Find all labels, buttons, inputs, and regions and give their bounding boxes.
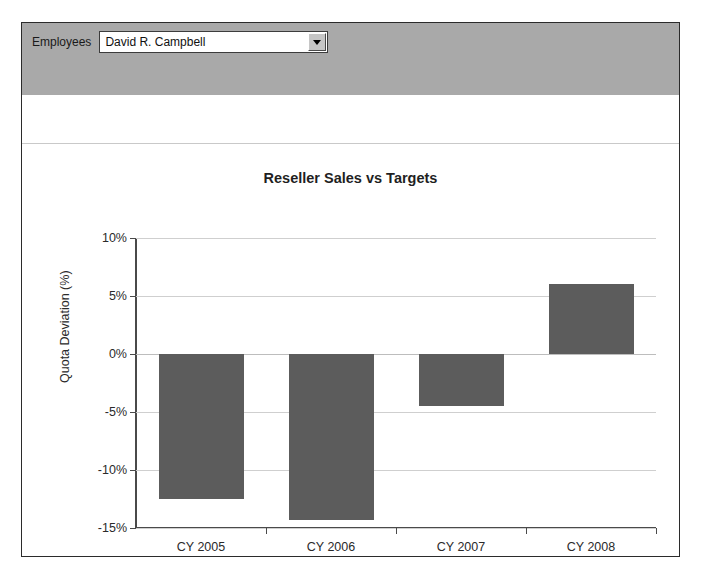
plot-area: 10%5%0%-5%-10%-15% CY 2005CY 2006CY 2007… — [136, 238, 656, 528]
y-tick-label: -5% — [105, 405, 127, 419]
y-axis-title: Quota Deviation (%) — [58, 270, 72, 383]
y-tick-label: -15% — [98, 521, 127, 535]
y-tick-mark — [130, 412, 136, 413]
y-tick-label: 5% — [109, 289, 127, 303]
x-tick-mark — [656, 528, 657, 534]
x-tick-label: CY 2005 — [177, 540, 225, 554]
x-tick-mark — [266, 528, 267, 534]
y-tick-label: -10% — [98, 463, 127, 477]
bar[interactable] — [419, 354, 504, 406]
x-tick-mark — [526, 528, 527, 534]
y-tick-mark — [130, 354, 136, 355]
y-tick-label: 10% — [102, 231, 127, 245]
y-tick-label: 0% — [109, 347, 127, 361]
employees-select[interactable]: David R. Campbell — [99, 31, 328, 53]
x-tick-label: CY 2008 — [567, 540, 615, 554]
chart-container: Reseller Sales vs Targets Quota Deviatio… — [22, 145, 679, 556]
x-tick-label: CY 2007 — [437, 540, 485, 554]
chevron-down-icon[interactable] — [308, 33, 326, 51]
report-toolbar-spacer — [22, 95, 679, 144]
bar[interactable] — [289, 354, 374, 520]
parameter-toolbar: Employees David R. Campbell — [22, 23, 679, 95]
caret-down-glyph — [313, 40, 321, 45]
y-tick-mark — [130, 470, 136, 471]
y-tick-mark — [130, 296, 136, 297]
chart-title: Reseller Sales vs Targets — [22, 170, 679, 186]
y-axis-line — [135, 238, 137, 528]
x-tick-label: CY 2006 — [307, 540, 355, 554]
y-tick-mark — [130, 238, 136, 239]
x-tick-mark — [396, 528, 397, 534]
bar[interactable] — [549, 284, 634, 354]
employees-parameter: Employees David R. Campbell — [32, 31, 328, 53]
employees-label: Employees — [32, 35, 91, 49]
gridline — [136, 238, 656, 239]
report-panel: Employees David R. Campbell Reseller Sal… — [21, 22, 680, 557]
bar[interactable] — [159, 354, 244, 499]
y-tick-mark — [130, 528, 136, 529]
employees-selected-value: David R. Campbell — [100, 35, 308, 49]
